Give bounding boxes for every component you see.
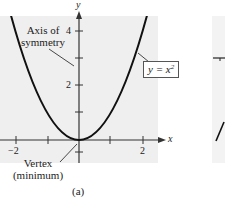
axis-of-symmetry-line2: symmetry xyxy=(20,37,66,48)
x-axis-arrow-icon xyxy=(158,137,166,143)
parabola-figure: y x 4 2 −2 2 Axis of symmetry Vertex (mi… xyxy=(0,0,225,207)
vertex-annotation: Vertex (minimum) xyxy=(12,158,64,181)
x-axis-label: x xyxy=(168,134,172,144)
x-tick-label-2: 2 xyxy=(140,146,145,156)
vertex-line1: Vertex xyxy=(12,158,64,169)
function-label-text: y = x xyxy=(148,63,171,75)
axis-of-symmetry-annotation: Axis of symmetry xyxy=(20,25,66,48)
y-axis-label: y xyxy=(76,0,80,10)
y-tick-label-4: 4 xyxy=(66,26,71,36)
vertex-line2: (minimum) xyxy=(12,170,64,181)
next-panel-background xyxy=(212,16,225,163)
function-label-exponent: 2 xyxy=(171,63,175,71)
axis-of-symmetry-line1: Axis of xyxy=(20,25,66,36)
y-tick-label-2: 2 xyxy=(66,80,71,90)
y-axis-arrow-icon xyxy=(76,11,82,19)
function-label-box: y = x2 xyxy=(143,61,179,78)
x-tick-label-neg2: −2 xyxy=(8,146,19,156)
panel-caption: (a) xyxy=(72,186,84,197)
